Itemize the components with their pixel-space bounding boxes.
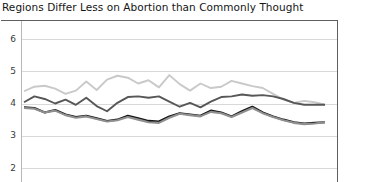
y-tick-2: 2	[10, 164, 16, 173]
series-group	[24, 75, 325, 124]
chart-title: Regions Differ Less on Abortion than Com…	[2, 0, 363, 17]
y-tick-5: 5	[10, 67, 16, 76]
line-series-light-gray	[24, 75, 325, 105]
y-tick-4: 4	[10, 99, 16, 108]
y-tick-6: 6	[10, 35, 16, 44]
line-series-mid-gray	[24, 108, 325, 124]
plot-area	[22, 21, 338, 182]
chart-container: Regions Differ Less on Abortion than Com…	[0, 0, 365, 182]
gridlines	[22, 40, 337, 169]
line-chart-svg	[22, 21, 338, 182]
y-tick-3: 3	[10, 131, 16, 140]
y-axis-tick-labels: 65432	[0, 21, 20, 182]
